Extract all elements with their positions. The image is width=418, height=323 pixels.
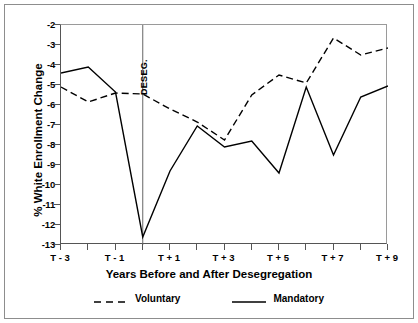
y-tick-mark bbox=[54, 224, 60, 225]
x-tick-mark bbox=[251, 244, 252, 250]
legend-label: Voluntary bbox=[135, 293, 180, 304]
deseg-annotation-label: DESEG. bbox=[139, 59, 149, 95]
x-tick-mark bbox=[333, 244, 334, 250]
y-tick-mark bbox=[54, 244, 60, 245]
x-tick-mark bbox=[360, 244, 361, 250]
legend-swatch-solid bbox=[232, 293, 266, 303]
y-tick-mark bbox=[54, 104, 60, 105]
x-tick-mark bbox=[305, 244, 306, 250]
x-tick-mark bbox=[224, 244, 225, 250]
y-tick-mark bbox=[54, 64, 60, 65]
y-tick-mark bbox=[54, 184, 60, 185]
series-line-voluntary bbox=[61, 38, 388, 140]
chart-figure: -2-3-4-5-6-7-8-9-10-11-12-13 % White Enr… bbox=[0, 0, 418, 323]
x-tick-label: T - 3 bbox=[50, 252, 70, 263]
x-tick-mark bbox=[278, 244, 279, 250]
x-tick-label: T + 3 bbox=[213, 252, 235, 263]
y-tick-mark bbox=[54, 144, 60, 145]
x-tick-label: T + 7 bbox=[322, 252, 344, 263]
x-tick-mark bbox=[115, 244, 116, 250]
x-tick-mark bbox=[169, 244, 170, 250]
series-line-mandatory bbox=[61, 67, 388, 237]
y-tick-mark bbox=[54, 204, 60, 205]
x-tick-label: T - 1 bbox=[105, 252, 125, 263]
plot-lines bbox=[61, 25, 388, 245]
x-tick-mark bbox=[196, 244, 197, 250]
chart-legend: VoluntaryMandatory bbox=[0, 288, 418, 308]
x-tick-label: T + 5 bbox=[267, 252, 289, 263]
y-tick-mark bbox=[54, 84, 60, 85]
x-tick-mark bbox=[60, 244, 61, 250]
x-tick-mark bbox=[142, 244, 143, 250]
x-tick-label: T + 9 bbox=[376, 252, 398, 263]
y-axis-title: % White Enrollment Change bbox=[32, 40, 44, 240]
legend-swatch-dashed bbox=[94, 293, 128, 303]
x-axis-title: Years Before and After Desegregation bbox=[0, 268, 418, 280]
y-tick-mark bbox=[54, 44, 60, 45]
legend-label: Mandatory bbox=[273, 293, 324, 304]
x-tick-mark bbox=[387, 244, 388, 250]
y-tick-mark bbox=[54, 24, 60, 25]
y-tick-mark bbox=[54, 164, 60, 165]
x-tick-label: T + 1 bbox=[158, 252, 180, 263]
x-tick-mark bbox=[87, 244, 88, 250]
plot-area bbox=[60, 24, 387, 244]
legend-entry-voluntary: Voluntary bbox=[94, 293, 180, 304]
y-tick-mark bbox=[54, 124, 60, 125]
legend-entry-mandatory: Mandatory bbox=[232, 293, 324, 304]
